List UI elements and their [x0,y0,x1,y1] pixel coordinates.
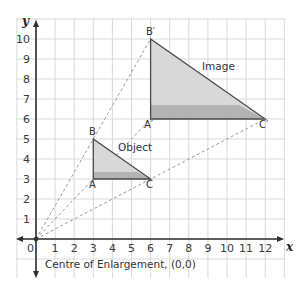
vertex-label-b-prime: B′ [146,26,156,37]
x-tick-label: 12 [258,242,272,255]
x-tick-label: 9 [204,242,211,255]
vertex-label-a: A [89,179,96,190]
enlargement-diagram: 123456789101112 12345678910 0 x y B′ A′ … [0,0,303,289]
centre-caption: Centre of Enlargement, (0,0) [45,258,196,270]
y-axis-label: y [21,14,30,28]
centre-point [34,237,38,241]
y-tick-label: 9 [23,53,30,66]
x-tick-label: 2 [71,242,78,255]
x-tick-labels: 123456789101112 [52,242,273,255]
y-tick-label: 7 [23,93,30,106]
y-tick-label: 1 [23,213,30,226]
x-axis-arrow-icon [277,236,284,242]
y-tick-label: 3 [23,173,30,186]
vertex-label-c-prime: C′ [259,119,269,130]
y-tick-label: 2 [23,193,30,206]
x-tick-label: 4 [109,242,116,255]
x-tick-label: 1 [52,242,59,255]
x-tick-label: 5 [128,242,135,255]
x-axis-label: x [285,240,294,254]
x-tick-label: 10 [220,242,234,255]
origin-label: 0 [27,242,34,255]
vertex-label-c: C [146,179,153,190]
x-tick-label: 6 [147,242,154,255]
x-tick-label: 3 [90,242,97,255]
y-tick-label: 4 [23,153,30,166]
y-tick-label: 6 [23,113,30,126]
y-tick-labels: 12345678910 [16,33,30,226]
x-tick-label: 7 [166,242,173,255]
object-label: Object [118,141,152,153]
vertex-label-a-prime: A′ [144,119,154,130]
y-tick-label: 8 [23,73,30,86]
y-tick-label: 5 [23,133,30,146]
image-label: Image [202,60,235,72]
vertex-label-b: B [89,126,96,137]
x-tick-label: 11 [239,242,253,255]
x-tick-label: 8 [185,242,192,255]
y-axis-arrow-icon [33,20,39,27]
y-tick-label: 10 [16,33,30,46]
y-axis-down-arrow-icon [33,271,39,278]
